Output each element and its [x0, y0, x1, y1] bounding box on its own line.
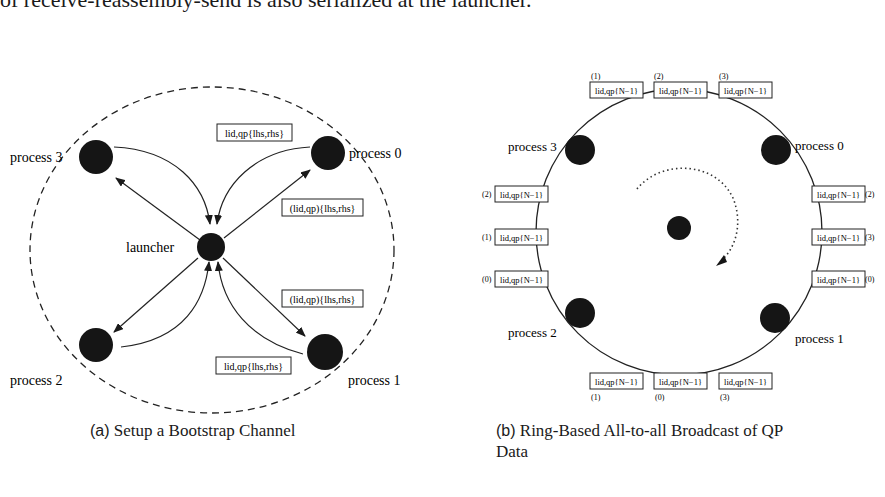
ring-node-process-1 — [760, 303, 790, 333]
svg-text:lid,qp{N−1}: lid,qp{N−1} — [659, 86, 702, 96]
svg-text:(0): (0) — [482, 275, 492, 284]
node-process-2 — [79, 328, 113, 362]
ring-node-process-0 — [761, 135, 791, 165]
svg-text:(3): (3) — [720, 393, 730, 402]
msg-box-p1-to-launcher: lid,qp{lhs,rhs} — [216, 357, 291, 374]
caption-a: (a) Setup a Bootstrap Channel — [90, 420, 296, 441]
figure-b: process 3 process 0 process 2 process 1 … — [482, 72, 875, 402]
svg-text:lid,qp{N−1}: lid,qp{N−1} — [595, 86, 638, 96]
bottom-box-1: lid,qp{N−1} (1) — [590, 373, 643, 402]
left-box-2: (1) lid,qp{N−1} — [482, 229, 548, 245]
svg-text:lid,qp{lhs,rhs}: lid,qp{lhs,rhs} — [225, 128, 284, 139]
svg-text:(lid,qp){lhs,rhs}: (lid,qp){lhs,rhs} — [290, 203, 356, 215]
svg-text:(2): (2) — [482, 190, 492, 199]
rotation-arrow — [637, 168, 738, 260]
svg-text:(0): (0) — [865, 275, 875, 284]
label-process-0: process 0 — [349, 146, 402, 161]
svg-text:(2): (2) — [654, 72, 664, 81]
caption-b-label: (b) — [496, 422, 516, 439]
ring-label-process-1: process 1 — [795, 331, 844, 346]
ring-label-process-3: process 3 — [508, 139, 557, 154]
svg-text:lid,qp{lhs,rhs}: lid,qp{lhs,rhs} — [224, 361, 283, 372]
bottom-box-3: lid,qp{N−1} (3) — [719, 373, 772, 402]
left-box-3: (0) lid,qp{N−1} — [482, 271, 548, 287]
right-box-1: lid,qp{N−1} (2) — [812, 186, 875, 202]
ring-node-process-2 — [565, 298, 595, 328]
top-box-1: (1) lid,qp{N−1} — [590, 72, 643, 98]
svg-text:lid,qp{N−1}: lid,qp{N−1} — [724, 86, 767, 96]
svg-text:(1): (1) — [591, 72, 601, 81]
svg-text:lid,qp{N−1}: lid,qp{N−1} — [595, 377, 638, 387]
msg-box-launcher-to-p1: (lid,qp){lhs,rhs} — [282, 290, 363, 307]
label-process-2: process 2 — [10, 373, 63, 388]
svg-text:lid,qp{N−1}: lid,qp{N−1} — [500, 190, 543, 200]
svg-text:lid,qp{N−1}: lid,qp{N−1} — [724, 377, 767, 387]
node-launcher — [197, 233, 225, 261]
ring-label-process-2: process 2 — [508, 325, 557, 340]
svg-text:(0): (0) — [655, 393, 665, 402]
figure-a: process 3 process 0 launcher process 2 p… — [10, 87, 402, 413]
left-box-1: (2) lid,qp{N−1} — [482, 186, 548, 202]
caption-a-text: Setup a Bootstrap Channel — [114, 421, 296, 440]
msg-box-launcher-to-p0: (lid,qp){lhs,rhs} — [282, 199, 363, 216]
bottom-box-2: lid,qp{N−1} (0) — [654, 373, 707, 402]
right-box-2: lid,qp{N−1} (3) — [812, 229, 875, 245]
node-process-3 — [79, 140, 113, 174]
node-process-0 — [311, 136, 345, 170]
svg-text:(3): (3) — [865, 233, 875, 242]
svg-text:lid,qp{N−1}: lid,qp{N−1} — [659, 377, 702, 387]
top-box-3: (3) lid,qp{N−1} — [719, 72, 772, 98]
arrow-launcher-to-p2 — [114, 258, 198, 332]
caption-b-line1: Ring-Based All-to-all Broadcast of QP — [520, 421, 783, 440]
svg-text:(2): (2) — [865, 190, 875, 199]
msg-box-p0-to-launcher: lid,qp{lhs,rhs} — [217, 124, 292, 141]
caption-a-label: (a) — [90, 422, 110, 439]
caption-b: (b) Ring-Based All-to-all Broadcast of Q… — [496, 420, 885, 462]
right-box-3: lid,qp{N−1} (0) — [812, 271, 875, 287]
arrow-p1-to-launcher — [218, 262, 303, 354]
top-box-2: (2) lid,qp{N−1} — [654, 72, 707, 98]
label-launcher: launcher — [126, 240, 175, 255]
svg-text:(lid,qp){lhs,rhs}: (lid,qp){lhs,rhs} — [290, 294, 356, 306]
arrow-launcher-to-p3 — [116, 178, 200, 240]
svg-text:lid,qp{N−1}: lid,qp{N−1} — [500, 275, 543, 285]
svg-text:(1): (1) — [591, 393, 601, 402]
svg-text:(3): (3) — [719, 72, 729, 81]
node-process-1 — [307, 334, 343, 370]
ring-label-process-0: process 0 — [795, 138, 844, 153]
ring-node-process-3 — [565, 135, 595, 165]
svg-text:(1): (1) — [482, 233, 492, 242]
center-node — [667, 216, 691, 240]
svg-text:lid,qp{N−1}: lid,qp{N−1} — [817, 233, 860, 243]
svg-text:lid,qp{N−1}: lid,qp{N−1} — [817, 190, 860, 200]
svg-text:lid,qp{N−1}: lid,qp{N−1} — [817, 275, 860, 285]
label-process-3: process 3 — [10, 150, 63, 165]
label-process-1: process 1 — [348, 373, 401, 388]
arrow-p2-to-launcher — [121, 262, 209, 347]
svg-text:lid,qp{N−1}: lid,qp{N−1} — [500, 233, 543, 243]
caption-b-line2: Data — [496, 441, 885, 462]
